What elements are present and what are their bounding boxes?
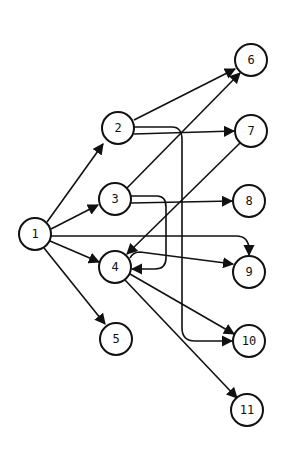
- node-3: 3: [99, 183, 131, 215]
- edge-1-to-4: [50, 241, 99, 262]
- node-10: 10: [233, 325, 265, 357]
- directed-graph: 1234567891011: [0, 0, 289, 454]
- edge-3-to-6: [127, 73, 240, 188]
- node-label: 1: [31, 227, 38, 241]
- node-label: 10: [242, 334, 256, 348]
- edge-1-to-2: [47, 144, 103, 222]
- edge-2-to-7: [134, 131, 234, 134]
- edge-1-to-9: [51, 236, 249, 255]
- node-8: 8: [233, 185, 265, 217]
- node-label: 6: [247, 53, 254, 67]
- node-7: 7: [235, 115, 267, 147]
- node-label: 11: [240, 403, 254, 417]
- node-11: 11: [231, 394, 263, 426]
- edge-7-to-4: [127, 143, 240, 254]
- node-label: 4: [111, 260, 118, 274]
- node-label: 3: [111, 192, 118, 206]
- edge-1-to-5: [44, 248, 105, 324]
- node-6: 6: [235, 44, 267, 76]
- edge-1-to-3: [51, 205, 98, 229]
- node-layer: 1234567891011: [19, 44, 267, 426]
- node-2: 2: [102, 112, 134, 144]
- node-4: 4: [99, 251, 131, 283]
- edge-2-to-10: [134, 127, 232, 341]
- edge-layer: [44, 69, 249, 398]
- node-1: 1: [19, 218, 51, 250]
- node-label: 5: [112, 332, 119, 346]
- node-5: 5: [100, 323, 132, 355]
- node-label: 9: [245, 265, 252, 279]
- node-label: 8: [245, 194, 252, 208]
- node-label: 7: [247, 124, 254, 138]
- edge-4-to-11: [125, 280, 237, 398]
- node-label: 2: [114, 121, 121, 135]
- node-9: 9: [233, 256, 265, 288]
